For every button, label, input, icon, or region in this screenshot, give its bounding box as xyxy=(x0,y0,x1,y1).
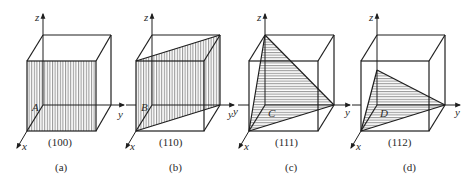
z-axis-label: z xyxy=(34,11,40,23)
point-label-a: A xyxy=(31,101,39,113)
miller-indices-figure: z y x A (100) (a) z y x xyxy=(0,0,474,182)
z-axis-label: z xyxy=(368,11,374,23)
plane-110 xyxy=(136,35,220,131)
y-neg-axis-label: y xyxy=(232,105,238,117)
caption-a: (a) xyxy=(55,161,68,174)
panel-b: z y x B (110) (b) xyxy=(126,11,234,174)
x-axis-label: x xyxy=(355,140,361,152)
panel-c: z y y x C (111) (c) xyxy=(232,11,350,174)
plane-label-c: (111) xyxy=(275,136,298,149)
z-axis-label: z xyxy=(143,11,149,23)
caption-c: (c) xyxy=(285,161,298,174)
plane-label-d: (112) xyxy=(388,136,412,149)
z-axis-label: z xyxy=(256,11,262,23)
caption-b: (b) xyxy=(169,161,182,174)
plane-100 xyxy=(27,61,96,131)
panel-a: z y x A (100) (a) xyxy=(17,11,124,174)
point-label-c: C xyxy=(268,107,276,119)
point-label-d: D xyxy=(379,107,388,119)
y-axis-label: y xyxy=(117,108,123,120)
plane-112 xyxy=(361,70,445,131)
x-axis-label: x xyxy=(129,140,135,152)
plane-label-b: (110) xyxy=(159,136,183,149)
y-axis-label: y xyxy=(344,106,350,118)
caption-d: (d) xyxy=(403,161,416,174)
panel-d: z y x D (112) (d) xyxy=(351,11,460,174)
x-axis-label: x xyxy=(243,140,249,152)
x-axis-label: x xyxy=(21,140,27,152)
point-label-b: B xyxy=(141,101,148,113)
plane-label-a: (100) xyxy=(48,136,72,149)
y-axis-label: y xyxy=(454,106,460,118)
plane-111 xyxy=(249,35,334,131)
